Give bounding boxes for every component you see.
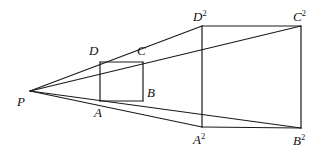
ray-P-to-C2 (30, 26, 301, 91)
vertex-label-C2: C2 (293, 9, 306, 23)
line-group (30, 26, 301, 128)
figure-canvas (0, 0, 332, 154)
vertex-label-A2: A2 (193, 132, 205, 146)
vertex-label-B2: B2 (293, 133, 305, 147)
vertex-label-C: C (137, 44, 146, 57)
vertex-label-P: P (17, 95, 25, 108)
vertex-label-B: B (147, 86, 155, 99)
vertex-label-D: D (89, 44, 98, 57)
large-square-bottom-A2B2 (202, 127, 301, 128)
ray-P-to-B2 (30, 91, 301, 128)
vertex-label-A: A (94, 106, 102, 119)
ray-P-to-D2 (30, 26, 202, 91)
vertex-label-D2: D2 (193, 9, 207, 23)
ray-P-to-A2 (30, 91, 202, 127)
geometry-figure: P A B C D A2 B2 C2 D2 (0, 0, 332, 154)
